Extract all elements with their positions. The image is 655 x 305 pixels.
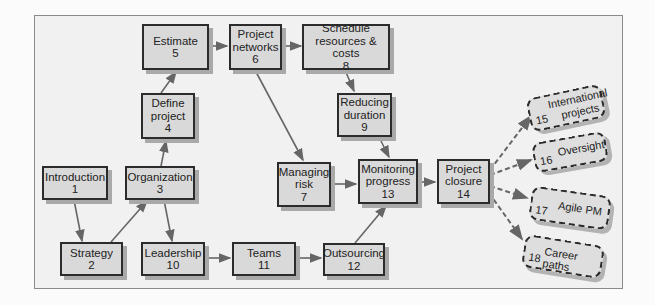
- node-label: Estimate: [153, 35, 198, 48]
- node-number: 2: [88, 259, 94, 272]
- node-label: Agile PM: [557, 199, 602, 217]
- node-number: 18: [528, 251, 542, 265]
- node-number: 11: [258, 259, 270, 272]
- node-number: 6: [252, 53, 258, 66]
- node-number: 8: [343, 60, 349, 73]
- node-project-closure: Project closure 14: [437, 159, 490, 204]
- node-managing-risk: Managing risk 7: [277, 162, 331, 207]
- node-introduction: Introduction 1: [42, 166, 108, 200]
- node-strategy: Strategy 2: [60, 242, 123, 276]
- node-estimate: Estimate 5: [142, 24, 209, 70]
- node-number: 4: [165, 122, 171, 135]
- node-number: 17: [535, 203, 549, 217]
- node-label: duration: [344, 109, 386, 122]
- node-schedule-resources-costs: Schedule resources & costs 8: [302, 24, 390, 70]
- node-number: 16: [539, 153, 553, 167]
- node-label: project: [151, 110, 186, 123]
- node-project-networks: Project networks 6: [229, 24, 282, 70]
- node-label: Define: [151, 97, 184, 110]
- node-label: Oversight: [557, 138, 605, 158]
- node-number: 9: [361, 121, 367, 134]
- node-reducing-duration: Reducing duration 9: [337, 93, 392, 137]
- node-label: Organization: [127, 171, 192, 184]
- node-leadership: Leadership 10: [141, 242, 205, 276]
- node-teams: Teams 11: [232, 242, 296, 276]
- node-label: Teams: [247, 247, 281, 260]
- node-label: Reducing: [340, 96, 389, 109]
- node-number: 1: [72, 183, 78, 196]
- node-label: Schedule: [322, 22, 370, 35]
- node-label: networks: [232, 41, 278, 54]
- node-define-project: Define project 4: [141, 93, 195, 139]
- node-number: 13: [382, 188, 395, 201]
- node-label: risk: [295, 178, 313, 191]
- node-number: 15: [535, 112, 549, 126]
- node-number: 7: [301, 191, 307, 204]
- node-number: 10: [167, 259, 180, 272]
- node-label: Project: [446, 163, 482, 176]
- node-number: 5: [172, 47, 178, 60]
- node-label: Monitoring: [361, 163, 415, 176]
- node-label: progress: [366, 175, 411, 188]
- node-label: Introduction: [45, 171, 105, 184]
- node-number: 3: [157, 183, 163, 196]
- node-label: Managing: [279, 166, 330, 179]
- node-organization: Organization 3: [125, 166, 195, 200]
- node-label: Project: [238, 28, 274, 41]
- node-label: closure: [445, 175, 482, 188]
- node-monitoring-progress: Monitoring progress 13: [358, 159, 418, 204]
- node-label: Strategy: [70, 247, 113, 260]
- node-label: resources & costs: [304, 35, 388, 60]
- node-label: Outsourcing: [323, 247, 385, 260]
- node-number: 14: [457, 188, 470, 201]
- node-number: 12: [348, 260, 361, 273]
- node-outsourcing: Outsourcing 12: [323, 243, 385, 276]
- node-label: Leadership: [145, 247, 202, 260]
